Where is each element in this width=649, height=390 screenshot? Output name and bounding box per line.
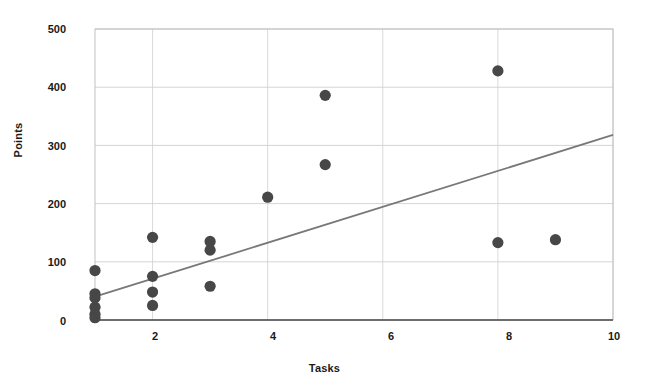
horizontal-gridlines xyxy=(95,29,613,320)
scatter-chart: Points Tasks 500 400 300 200 100 0 2 4 6… xyxy=(0,0,649,390)
vertical-gridlines xyxy=(153,29,613,320)
plot-frame xyxy=(95,29,613,320)
plot-area xyxy=(0,0,649,390)
trendline xyxy=(95,135,613,297)
data-points xyxy=(89,65,561,323)
